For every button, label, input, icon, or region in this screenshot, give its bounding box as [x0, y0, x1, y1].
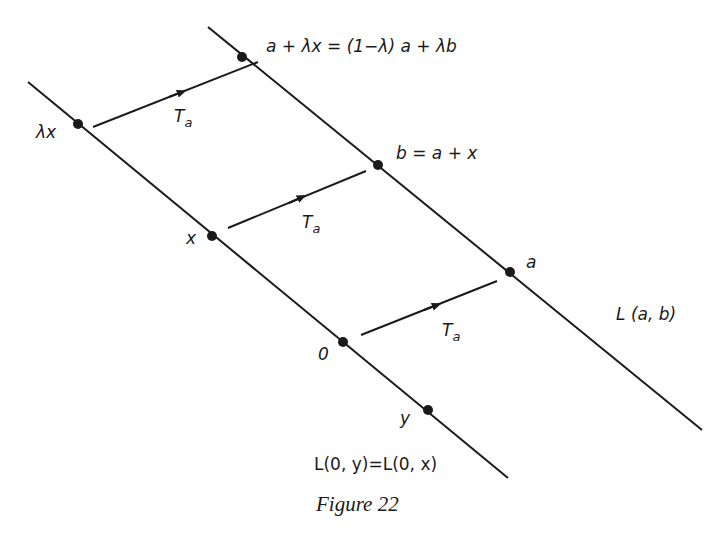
- label-line-L-0-y: L(0, y)=L(0, x): [314, 456, 437, 473]
- translation-subscript: a: [184, 115, 192, 130]
- translation-subscript: a: [452, 329, 460, 344]
- point-lambda-x: [73, 119, 83, 129]
- point-a: [505, 267, 515, 277]
- translation-symbol: T: [302, 212, 312, 232]
- label-b-equals: b = a + x: [396, 145, 477, 162]
- line-L-a-b: [208, 27, 702, 430]
- label-translation-bottom: Ta: [442, 322, 460, 339]
- translation-symbol: T: [442, 320, 452, 340]
- translation-arrow-middle: [228, 171, 366, 228]
- point-b: [373, 160, 383, 170]
- translation-arrow-bottom: [361, 281, 497, 335]
- point-x: [207, 231, 217, 241]
- translation-symbol: T: [174, 106, 184, 126]
- translation-subscript: a: [312, 221, 320, 236]
- point-y: [423, 405, 433, 415]
- label-line-L-a-b: L (a, b): [616, 306, 676, 323]
- label-y: y: [400, 410, 410, 427]
- label-translation-top: Ta: [174, 108, 192, 125]
- point-origin: [338, 337, 348, 347]
- label-x: x: [186, 230, 196, 247]
- label-lambda-x: λx: [36, 124, 56, 141]
- label-origin: 0: [318, 346, 329, 363]
- line-through-origin: [28, 82, 508, 478]
- label-translation-middle: Ta: [302, 214, 320, 231]
- label-a: a: [526, 254, 536, 271]
- figure-caption: Figure 22: [316, 492, 399, 517]
- label-a-plus-lambda-x: a + λx = (1−λ) a + λb: [266, 38, 457, 55]
- point-a-plus-lambda-x: [237, 52, 247, 62]
